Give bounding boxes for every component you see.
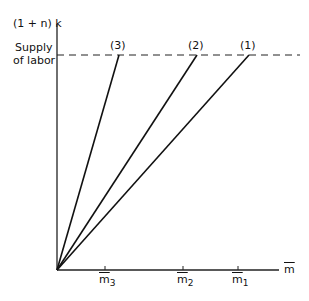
line-3 [57,55,119,270]
tick-label-m2: m2 [177,274,193,286]
line-1-label: (1) [240,40,256,52]
x-axis-label: m [284,264,295,276]
line-3-label: (3) [110,40,126,52]
line-2 [57,55,197,270]
supply-label-line2: of labor [13,55,55,67]
tick-label-m1: m1 [232,274,248,286]
line-1 [57,55,249,270]
supply-label-line1: Supply [15,42,53,54]
y-axis-label: (1 + n) k [13,18,62,30]
line-2-label: (2) [188,40,204,52]
tick-label-m3: m3 [99,274,115,286]
